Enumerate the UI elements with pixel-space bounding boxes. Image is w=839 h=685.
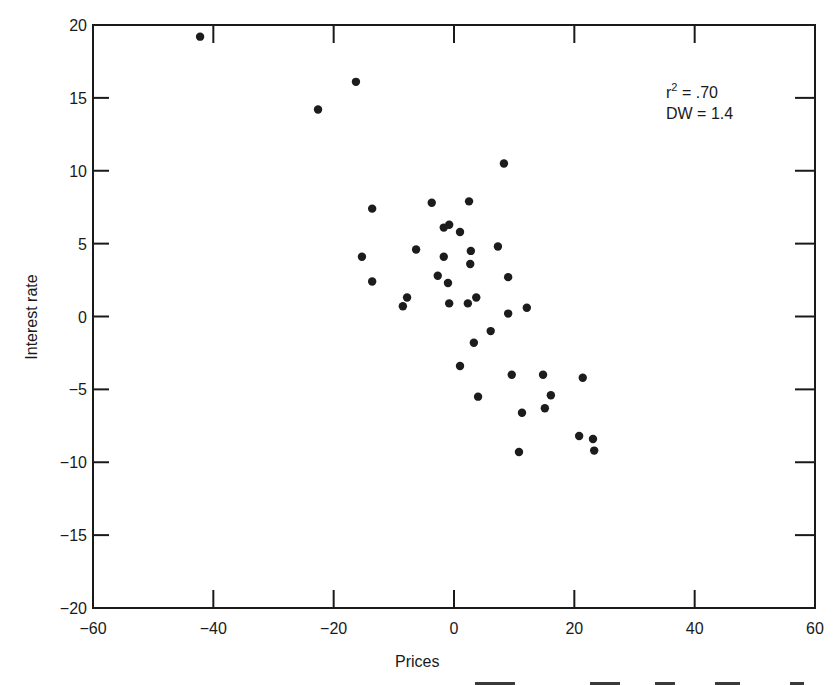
data-point: [196, 32, 204, 40]
x-tick-label: −20: [320, 620, 347, 637]
data-point: [589, 435, 597, 443]
data-point: [412, 245, 420, 253]
data-point: [515, 448, 523, 456]
x-tick-label: 0: [450, 620, 459, 637]
data-point: [474, 392, 482, 400]
data-point: [467, 247, 475, 255]
data-point: [456, 228, 464, 236]
data-point: [500, 159, 508, 167]
data-point: [445, 220, 453, 228]
y-tick-label: 20: [69, 17, 87, 34]
y-tick-label: 5: [78, 236, 87, 253]
data-point: [579, 374, 587, 382]
data-point: [539, 371, 547, 379]
data-point: [575, 432, 583, 440]
y-tick-label: −20: [60, 600, 87, 617]
durbin-watson-annotation: DW = 1.4: [666, 105, 733, 122]
data-point: [494, 242, 502, 250]
data-point: [445, 299, 453, 307]
data-point: [352, 78, 360, 86]
x-axis-title: Prices: [395, 653, 439, 670]
data-point: [487, 327, 495, 335]
data-point: [466, 260, 474, 268]
data-point: [434, 271, 442, 279]
x-tick-label: −40: [200, 620, 227, 637]
y-tick-label: 10: [69, 163, 87, 180]
data-point: [541, 404, 549, 412]
data-point: [403, 293, 411, 301]
y-tick-label: −5: [69, 381, 87, 398]
data-point: [470, 339, 478, 347]
data-point: [444, 279, 452, 287]
y-tick-label: 15: [69, 90, 87, 107]
data-point: [464, 299, 472, 307]
data-point: [399, 302, 407, 310]
data-point: [504, 309, 512, 317]
y-tick-label: 0: [78, 309, 87, 326]
data-point: [465, 197, 473, 205]
data-point: [368, 204, 376, 212]
data-point: [523, 304, 531, 312]
y-tick-label: −15: [60, 527, 87, 544]
data-point: [358, 253, 366, 261]
data-point: [590, 446, 598, 454]
r-squared-annotation: r2 = .70: [666, 81, 718, 101]
data-point: [440, 253, 448, 261]
scatter-chart: −60−40−200204060−20−15−10−505101520 Pric…: [0, 0, 839, 685]
data-point: [547, 391, 555, 399]
x-tick-label: 40: [686, 620, 704, 637]
data-point: [504, 273, 512, 281]
data-point: [472, 293, 480, 301]
data-point: [368, 277, 376, 285]
data-point: [314, 105, 322, 113]
y-axis-title: Interest rate: [23, 274, 40, 359]
data-point: [456, 362, 464, 370]
data-point: [518, 408, 526, 416]
r-squared-value: = .70: [677, 84, 718, 101]
x-tick-label: −60: [79, 620, 106, 637]
data-points: [196, 32, 598, 456]
data-point: [428, 199, 436, 207]
x-tick-label: 60: [806, 620, 824, 637]
x-tick-label: 20: [565, 620, 583, 637]
data-point: [508, 371, 516, 379]
y-tick-label: −10: [60, 454, 87, 471]
